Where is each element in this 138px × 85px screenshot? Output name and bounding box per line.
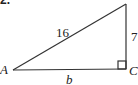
vertical-leg-label: 7 xyxy=(131,30,138,43)
vertex-a-label: A xyxy=(0,63,8,76)
hypotenuse-line xyxy=(13,4,126,70)
right-triangle-diagram: 2. 16 7 b A C xyxy=(0,0,138,85)
right-angle-marker xyxy=(118,61,126,69)
hypotenuse-label: 16 xyxy=(56,26,69,39)
base-label: b xyxy=(66,73,73,85)
base-line xyxy=(13,69,126,70)
vertex-c-label: C xyxy=(129,64,138,77)
